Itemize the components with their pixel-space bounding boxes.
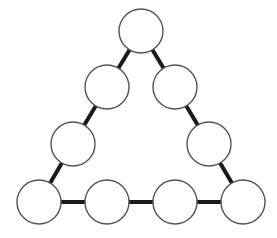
circle-right-2 — [187, 122, 231, 166]
circle-bottom-3 — [153, 180, 197, 224]
circle-bottom-2 — [85, 180, 129, 224]
node-bottom-3 — [153, 180, 197, 224]
node-bottom-2 — [85, 180, 129, 224]
edges-layer — [39, 31, 243, 202]
node-bottom-left — [17, 180, 61, 224]
node-bottom-right — [221, 180, 265, 224]
circle-left-2 — [51, 122, 95, 166]
circle-bottom-right — [221, 180, 265, 224]
circle-left-1 — [85, 65, 129, 109]
node-left-1 — [85, 65, 129, 109]
node-left-2 — [51, 122, 95, 166]
triangle-diagram — [0, 0, 277, 238]
node-right-1 — [153, 65, 197, 109]
node-top — [119, 9, 163, 53]
circle-top — [119, 9, 163, 53]
nodes-layer — [17, 9, 265, 224]
circle-bottom-left — [17, 180, 61, 224]
circle-right-1 — [153, 65, 197, 109]
node-right-2 — [187, 122, 231, 166]
